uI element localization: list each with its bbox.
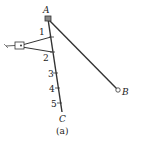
tick-label-4: 4: [49, 84, 55, 94]
diagram-canvas: A B C 1 2 3 4 5 (a): [0, 0, 149, 150]
bar-a-b: [48, 19, 118, 90]
device-box-icon: [15, 42, 24, 49]
device-handle: [6, 46, 15, 47]
caption: (a): [56, 126, 68, 136]
pin-b-icon: [116, 88, 120, 92]
label-c: C: [59, 114, 66, 124]
tick-label-1: 1: [39, 27, 45, 37]
tick-label-2: 2: [43, 53, 49, 63]
arm-to-2: [22, 47, 52, 52]
label-a: A: [42, 5, 50, 15]
tick-label-3: 3: [48, 69, 54, 79]
tick-label-5: 5: [51, 99, 57, 109]
pin-a-icon: [45, 16, 51, 21]
device-pivot-icon: [20, 45, 22, 47]
label-b: B: [121, 87, 129, 97]
arm-to-1: [22, 37, 51, 45]
